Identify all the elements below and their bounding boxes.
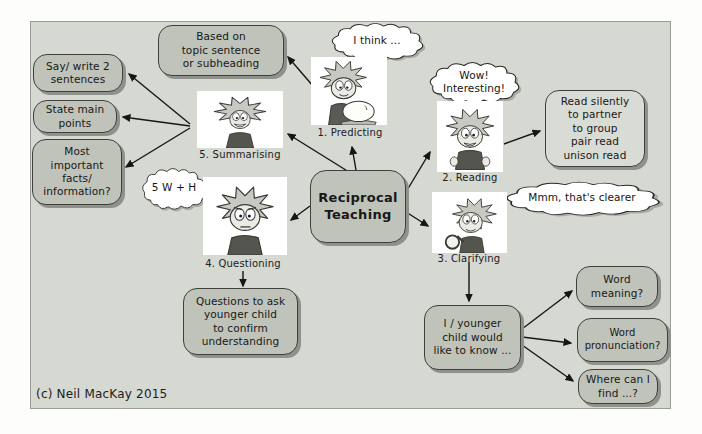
predicting-character-illustration — [311, 57, 387, 125]
questions-to-ask-box: Questions to ask younger child to confir… — [183, 288, 298, 355]
clarifying-caption: 3. Clarifying — [424, 253, 514, 264]
reading-caption: 2. Reading — [425, 172, 515, 183]
summarising-caption: 5. Summarising — [195, 149, 285, 160]
word-meaning-box: Word meaning? — [576, 266, 658, 307]
questioning-caption: 4. Questioning — [198, 258, 288, 269]
reciprocal-teaching-node: Reciprocal Teaching — [310, 170, 406, 243]
summarising-character-illustration — [197, 91, 283, 148]
i-think-thought-bubble: I think ... — [330, 22, 424, 60]
like-to-know-box: I / younger child would like to know ... — [424, 305, 521, 370]
say-write-2-sentences-box: Say/ write 2 sentences — [33, 54, 123, 92]
wow-interesting-text: Wow! Interesting! — [428, 61, 520, 103]
questioning-character-illustration — [203, 177, 287, 255]
state-main-points-box: State main points — [33, 100, 117, 133]
read-silently-box: Read silently to partner to group pair r… — [545, 90, 645, 167]
most-important-facts-box: Most important facts/ information? — [32, 139, 122, 205]
wow-interesting-thought-bubble: Wow! Interesting! — [428, 61, 520, 103]
i-think-text: I think ... — [330, 22, 424, 60]
where-can-i-find-box: Where can I find ...? — [578, 369, 658, 404]
based-on-topic-sentence-box: Based on topic sentence or subheading — [158, 25, 284, 76]
clarifying-character-illustration — [432, 192, 507, 253]
word-pronunciation-box: Word pronunciation? — [577, 318, 668, 362]
copyright-text: (c) Neil MacKay 2015 — [36, 387, 167, 401]
reading-character-illustration — [437, 101, 503, 172]
five-w-h-text: 5 W + H — [141, 167, 207, 209]
predicting-caption: 1. Predicting — [305, 127, 395, 138]
thats-clearer-text: Mmm, that's clearer — [503, 181, 661, 215]
thats-clearer-thought-bubble: Mmm, that's clearer — [503, 181, 661, 215]
five-w-h-thought-bubble: 5 W + H — [141, 167, 207, 209]
